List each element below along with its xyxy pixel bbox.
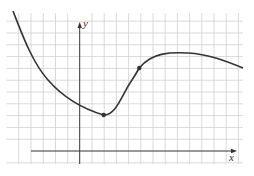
point-on-curve-point xyxy=(137,66,141,70)
function-graph: y x xyxy=(0,0,254,176)
y-axis-label: y xyxy=(82,17,88,29)
y-axis-arrow-icon xyxy=(78,22,82,28)
local-minimum-point xyxy=(102,113,106,117)
x-axis-label: x xyxy=(228,151,234,163)
function-curve xyxy=(13,11,243,115)
grid xyxy=(7,13,244,164)
